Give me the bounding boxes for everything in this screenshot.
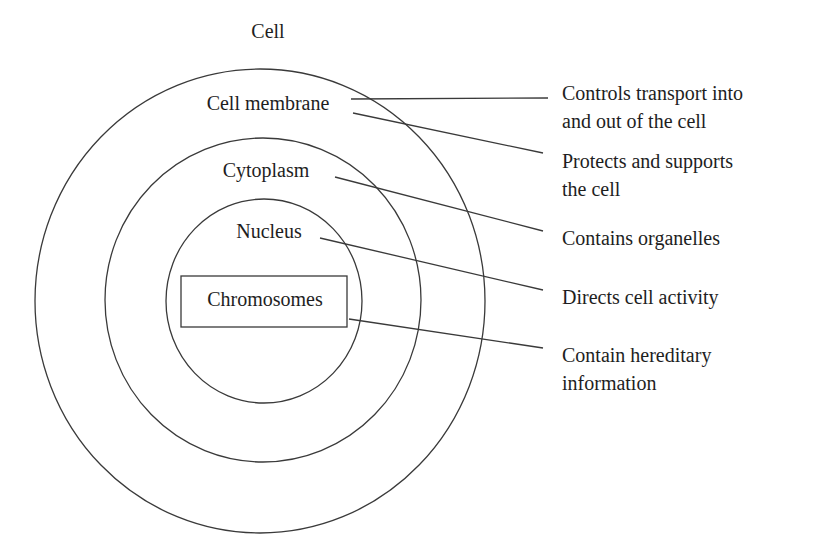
leader-line-cytoplasm (335, 177, 543, 231)
label-chromosomes: Chromosomes (207, 288, 323, 310)
leader-line-membrane-protect (353, 113, 543, 153)
desc-membrane-protect-line2: the cell (562, 178, 621, 200)
diagram-title: Cell (251, 20, 285, 42)
label-cytoplasm: Cytoplasm (223, 159, 310, 182)
desc-nucleus: Directs cell activity (562, 286, 719, 309)
desc-chromosomes-line2: information (562, 372, 656, 394)
leader-line-membrane-transport (351, 98, 548, 99)
cell-diagram: Cell Cell membrane Cytoplasm Nucleus Chr… (0, 0, 836, 556)
leader-line-chromosomes (349, 319, 543, 348)
desc-membrane-transport-line1: Controls transport into (562, 82, 743, 105)
desc-membrane-transport-line2: and out of the cell (562, 110, 707, 132)
label-cell-membrane: Cell membrane (207, 92, 330, 114)
desc-membrane-protect-line1: Protects and supports (562, 150, 733, 173)
label-nucleus: Nucleus (236, 220, 302, 242)
leader-line-nucleus (320, 238, 543, 290)
desc-cytoplasm: Contains organelles (562, 227, 720, 250)
desc-chromosomes-line1: Contain hereditary (562, 344, 711, 367)
